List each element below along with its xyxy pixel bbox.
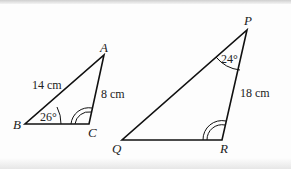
side-pr-length: 18 cm [240, 86, 270, 100]
side-ab-length: 14 cm [32, 78, 62, 92]
triangle-pqr [122, 30, 247, 140]
angle-p-label: 24° [221, 52, 238, 66]
vertex-label-q: Q [112, 141, 122, 156]
diagram-canvas: A B C 14 cm 8 cm 26° P Q R 18 cm 24° [0, 0, 291, 169]
angle-b-label: 26° [40, 110, 57, 124]
vertex-label-r: R [219, 141, 228, 156]
vertex-label-b: B [13, 117, 21, 132]
bottom-edge [0, 158, 291, 169]
side-ac-length: 8 cm [101, 87, 125, 101]
angle-b-arc [57, 107, 61, 124]
vertex-label-a: A [99, 40, 108, 55]
vertex-label-p: P [243, 13, 252, 28]
vertex-label-c: C [88, 125, 97, 140]
triangles-figure: A B C 14 cm 8 cm 26° P Q R 18 cm 24° [0, 0, 291, 169]
